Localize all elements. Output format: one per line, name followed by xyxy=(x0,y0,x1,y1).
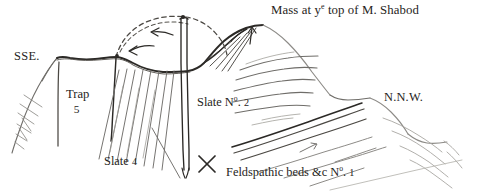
central-dyke-base-taper xyxy=(182,168,189,178)
geological-cross-section-figure: Mass at ye top of M. Shabod SSE. Trap5 S… xyxy=(0,0,478,195)
label-slate-number-2: Slate No. 2 xyxy=(197,96,249,109)
label-trap-number: 5 xyxy=(64,103,89,115)
sse-slope-hatching xyxy=(15,95,42,149)
label-slate2-name: Slate N xyxy=(197,95,234,109)
arch-crest-nodes xyxy=(115,15,185,58)
label-feldspathic-name: Feldspathic beds &c N xyxy=(226,165,339,179)
nnw-terminus-outline xyxy=(370,98,447,143)
eroded-arch-dashed-inner xyxy=(120,22,188,52)
sse-left-slope xyxy=(12,58,57,153)
central-dyke-fault xyxy=(181,19,189,170)
trap5-boundary-left xyxy=(58,62,59,146)
label-slate4-number: 4 xyxy=(132,156,137,167)
label-trap-5: Trap5 xyxy=(66,88,89,115)
label-nnw-direction: N.N.W. xyxy=(384,91,423,104)
arch-left-arrow-lower xyxy=(129,46,154,55)
arch-left-arrow-upper xyxy=(151,28,173,36)
feldspathic-dip-tick xyxy=(300,143,317,152)
label-trap-name: Trap xyxy=(66,87,89,101)
label-feldspathic-beds-number-1: Feldspathic beds &c No. 1 xyxy=(226,166,354,179)
label-slate-4: Slate 4 xyxy=(104,155,137,168)
nnw-terminus-contours xyxy=(383,118,462,188)
label-sse-direction: SSE. xyxy=(14,50,40,63)
slate2-right-shoulder xyxy=(330,95,370,100)
eroded-arch-dashed xyxy=(116,16,227,57)
label-slate2-number: 2 xyxy=(244,97,249,108)
slate2-bedding-lines-faint xyxy=(246,52,300,125)
slate4-hatching-faint xyxy=(110,86,155,158)
label-mass-suffix: top of M. Shabod xyxy=(325,3,419,17)
shabod-peak-hatching xyxy=(205,28,256,71)
label-feldspathic-number: 1 xyxy=(349,167,354,178)
label-slate4-name: Slate xyxy=(104,154,129,168)
label-mass-prefix: Mass at y xyxy=(271,3,321,17)
fault-cross-mark xyxy=(199,156,215,172)
trap5-boundary-right xyxy=(111,58,116,141)
label-mass-at-top-of-m-shabod: Mass at ye top of M. Shabod xyxy=(271,4,419,18)
